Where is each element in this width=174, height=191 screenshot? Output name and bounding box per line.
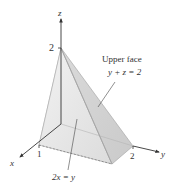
z-tick-label: 2 — [49, 42, 54, 53]
z-axis-label: z — [57, 8, 62, 18]
y-tick-label: 2 — [130, 151, 135, 161]
tetrahedron-diagram: z 2 x 1 y 2 Upper face y + z = 2 2x = y — [0, 0, 174, 191]
x-tick-label: 1 — [37, 149, 42, 159]
y-axis-label: y — [160, 149, 165, 159]
upper-face-title: Upper face — [102, 54, 142, 64]
upper-face-equation: y + z = 2 — [107, 67, 142, 77]
x-axis-label: x — [9, 158, 14, 168]
upper-face-leader — [98, 82, 115, 107]
plane-equation-label: 2x = y — [52, 172, 75, 182]
y-axis — [133, 146, 159, 152]
